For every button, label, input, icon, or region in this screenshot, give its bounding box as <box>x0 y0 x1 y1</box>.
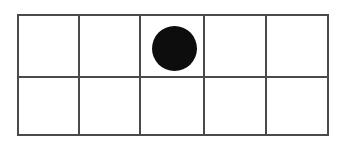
grid-cell-r1c2[interactable] <box>80 16 139 76</box>
filled-circle-marker[interactable] <box>152 26 197 71</box>
grid-cell-r1c5[interactable] <box>267 16 329 76</box>
figure-canvas <box>0 0 344 142</box>
grid-cell-r2c1[interactable] <box>19 78 78 136</box>
grid <box>17 14 329 136</box>
grid-cell-r2c5[interactable] <box>267 78 329 136</box>
grid-cell-r1c1[interactable] <box>19 16 78 76</box>
grid-cell-r2c3[interactable] <box>141 78 203 136</box>
grid-cell-r2c2[interactable] <box>80 78 139 136</box>
grid-cell-r1c4[interactable] <box>205 16 265 76</box>
grid-cell-r2c4[interactable] <box>205 78 265 136</box>
